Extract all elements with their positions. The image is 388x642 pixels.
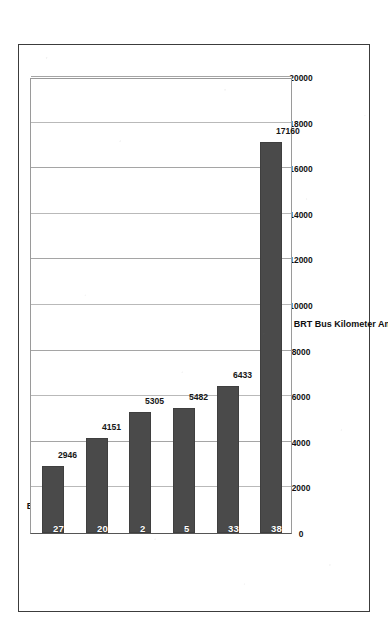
bar-africa: 2 <box>129 412 151 533</box>
bar-value-label: 5482 <box>189 392 208 402</box>
bar-value-label: 6433 <box>233 370 252 380</box>
bar-value-label: 2946 <box>58 450 77 460</box>
bar-count-label: 5 <box>184 523 189 534</box>
gridline <box>31 304 291 305</box>
gridline <box>31 76 291 77</box>
bar-count-label: 27 <box>53 523 64 534</box>
plot-area: 27294620415125305554823364333817160 <box>30 78 292 534</box>
gridline <box>31 213 291 214</box>
bar-australia-n-z: 5 <box>173 408 195 533</box>
gridline <box>31 122 291 123</box>
bar-count-label: 38 <box>271 523 282 534</box>
bar-value-label: 17160 <box>276 126 300 136</box>
bar-count-label: 20 <box>97 523 108 534</box>
bar-latin-america: 38 <box>260 142 282 533</box>
bar-europe: 27 <box>42 466 64 533</box>
bar-u-s-canada: 20 <box>86 438 108 533</box>
bar-count-label: 33 <box>228 523 239 534</box>
gridline <box>31 258 291 259</box>
chart-rotated-canvas: Average Riders per BRT Bus Kilometer Amo… <box>30 52 346 604</box>
bar-value-label: 4151 <box>102 422 121 432</box>
gridline <box>31 350 291 351</box>
gridline <box>31 167 291 168</box>
bar-chart: Average Riders per BRT Bus Kilometer Amo… <box>30 52 346 604</box>
bar-asia: 33 <box>217 386 239 533</box>
gridline <box>31 486 291 487</box>
gridline <box>31 441 291 442</box>
bar-value-label: 5305 <box>145 396 164 406</box>
bar-count-label: 2 <box>140 523 145 534</box>
